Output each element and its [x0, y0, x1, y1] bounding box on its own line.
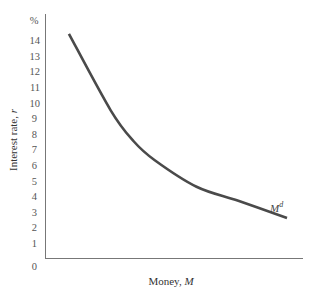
- y-tick-label: 6: [32, 160, 37, 171]
- y-tick-label: 2: [32, 222, 37, 233]
- y-tick-label: 5: [32, 176, 37, 187]
- y-unit-label: %: [30, 15, 39, 26]
- money-demand-curve: [69, 34, 287, 218]
- money-demand-chart: % 01234567891011121314 Interest rate, r …: [0, 0, 315, 300]
- y-tick-label: 8: [32, 129, 37, 140]
- y-tick-label: 13: [30, 51, 41, 62]
- y-axis-label: Interest rate, r: [7, 108, 19, 171]
- y-tick-label: 11: [30, 82, 40, 93]
- x-axis-label: Money, M: [148, 275, 194, 287]
- y-tick-labels: 01234567891011121314: [30, 35, 41, 272]
- y-tick-label: 12: [30, 66, 41, 77]
- y-tick-label: 9: [32, 113, 37, 124]
- y-tick-label: 10: [30, 98, 41, 109]
- y-tick-label: 0: [32, 261, 37, 272]
- y-tick-label: 3: [32, 207, 37, 218]
- y-tick-label: 1: [32, 238, 37, 249]
- y-tick-label: 4: [32, 191, 38, 202]
- y-tick-label: 14: [30, 35, 41, 46]
- y-tick-label: 7: [32, 144, 37, 155]
- money-demand-label: Md: [269, 200, 284, 214]
